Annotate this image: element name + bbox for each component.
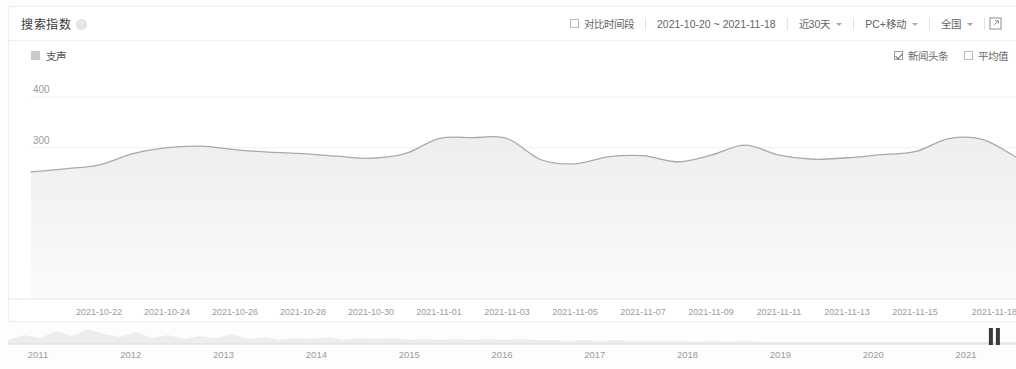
compare-period-label: 对比时间段 [584, 16, 634, 31]
svg-text:400: 400 [33, 84, 50, 95]
checkbox-box[interactable] [964, 51, 973, 60]
header-controls: 对比时间段 2021-10-20 ~ 2021-11-18 近30天 PC+移动 [559, 16, 1016, 31]
svg-text:2014: 2014 [306, 349, 327, 360]
date-range-display[interactable]: 2021-10-20 ~ 2021-11-18 [646, 18, 787, 30]
legend: 支声 新闻头条 平均值 [9, 41, 1016, 69]
svg-text:2016: 2016 [491, 349, 512, 360]
timeline-brush[interactable]: 2011201220132014201520162017201820192020… [8, 322, 1016, 369]
news-headline-label: 新闻头条 [908, 48, 948, 63]
divider [984, 18, 985, 30]
region-label: 全国 [941, 16, 961, 31]
legend-series-label: 支声 [46, 48, 66, 63]
svg-text:2020: 2020 [863, 349, 884, 360]
help-circle-icon[interactable] [76, 19, 87, 30]
svg-text:2021: 2021 [955, 349, 976, 360]
svg-text:2021-11-05: 2021-11-05 [552, 307, 597, 317]
svg-text:2021-11-15: 2021-11-15 [892, 307, 937, 317]
device-selector[interactable]: PC+移动 [854, 16, 929, 31]
svg-text:2013: 2013 [213, 349, 234, 360]
legend-series[interactable]: 支声 [31, 48, 66, 63]
checkbox-box[interactable] [894, 51, 903, 60]
brush-year-labels: 2011201220132014201520162017201820192020… [28, 349, 977, 360]
external-link-icon[interactable] [989, 17, 1002, 30]
chevron-down-icon [912, 23, 918, 26]
svg-text:2021-11-11: 2021-11-11 [757, 307, 802, 317]
svg-text:2012: 2012 [120, 349, 141, 360]
chart-area-fill [31, 137, 1016, 299]
svg-text:300: 300 [33, 135, 50, 146]
svg-text:2021-10-24: 2021-10-24 [144, 307, 190, 317]
chevron-down-icon [967, 23, 973, 26]
svg-text:2015: 2015 [399, 349, 420, 360]
average-label: 平均值 [978, 48, 1008, 63]
svg-text:2021-10-28: 2021-10-28 [280, 307, 326, 317]
region-selector[interactable]: 全国 [930, 16, 984, 31]
legend-swatch-icon [31, 51, 40, 60]
svg-text:2021-11-03: 2021-11-03 [484, 307, 529, 317]
news-headline-toggle[interactable]: 新闻头条 [894, 48, 948, 63]
checkbox-box[interactable] [570, 19, 579, 28]
svg-text:2021-11-18: 2021-11-18 [972, 307, 1016, 317]
date-range-text: 2021-10-20 ~ 2021-11-18 [657, 18, 776, 30]
device-label: PC+移动 [865, 16, 906, 31]
page-title: 搜索指数 [21, 15, 87, 32]
chart-card: 搜索指数 对比时间段 2021-10-20 ~ 2021-11-18 近30天 [8, 6, 1016, 322]
svg-text:2017: 2017 [584, 349, 605, 360]
chevron-down-icon [836, 23, 842, 26]
legend-options: 新闻头条 平均值 [878, 48, 1016, 63]
search-index-panel: 搜索指数 对比时间段 2021-10-20 ~ 2021-11-18 近30天 [0, 0, 1016, 369]
svg-text:2021-11-07: 2021-11-07 [620, 307, 665, 317]
svg-text:2021-11-01: 2021-11-01 [416, 307, 461, 317]
period-selector[interactable]: 近30天 [788, 16, 854, 31]
page-title-text: 搜索指数 [21, 18, 71, 32]
svg-text:2021-10-30: 2021-10-30 [348, 307, 394, 317]
svg-text:2021-11-13: 2021-11-13 [824, 307, 869, 317]
svg-text:2018: 2018 [677, 349, 698, 360]
svg-text:2021-10-26: 2021-10-26 [212, 307, 258, 317]
chart-x-axis-labels: 2021-10-222021-10-242021-10-262021-10-28… [76, 307, 1016, 317]
svg-text:2021-11-09: 2021-11-09 [688, 307, 733, 317]
line-area-chart[interactable]: 100200300400 2021-10-222021-10-242021-10… [9, 69, 1016, 323]
brush-chart[interactable]: 2011201220132014201520162017201820192020… [8, 322, 1016, 369]
svg-text:2021-10-22: 2021-10-22 [76, 307, 122, 317]
svg-text:2011: 2011 [28, 349, 48, 360]
chart-plot-area[interactable]: 100200300400 2021-10-222021-10-242021-10… [9, 69, 1016, 323]
brush-area-fill [8, 329, 1016, 344]
period-label: 近30天 [799, 16, 831, 31]
card-header: 搜索指数 对比时间段 2021-10-20 ~ 2021-11-18 近30天 [9, 7, 1016, 41]
svg-text:2019: 2019 [770, 349, 791, 360]
average-toggle[interactable]: 平均值 [964, 48, 1008, 63]
compare-period-checkbox[interactable]: 对比时间段 [559, 16, 645, 31]
